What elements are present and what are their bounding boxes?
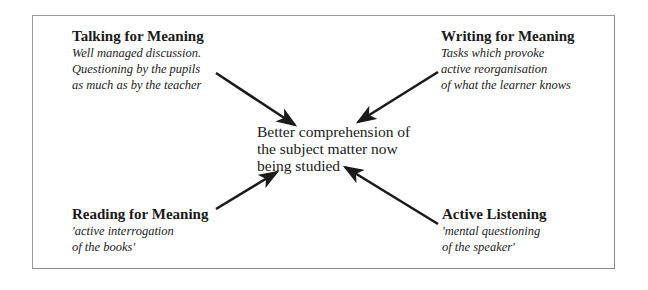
central-outcome-line: Better comprehension of bbox=[257, 123, 410, 140]
node-description-line: as much as by the teacher bbox=[72, 77, 204, 93]
node-heading: Reading for Meaning bbox=[72, 206, 208, 223]
node-description-line: of the books' bbox=[72, 239, 208, 255]
node-description-line: 'active interrogation bbox=[72, 223, 208, 239]
node-description-line: of the speaker' bbox=[442, 239, 547, 255]
node-description-line: 'mental questioning bbox=[442, 223, 547, 239]
node-reading-for-meaning: Reading for Meaning 'active interrogatio… bbox=[72, 206, 208, 255]
node-description-line: Well managed discussion. bbox=[72, 45, 204, 61]
node-active-listening: Active Listening 'mental questioning of … bbox=[442, 206, 547, 255]
node-talking-for-meaning: Talking for Meaning Well managed discuss… bbox=[72, 28, 204, 93]
central-outcome: Better comprehension of the subject matt… bbox=[257, 123, 410, 174]
central-outcome-line: being studied bbox=[257, 157, 410, 174]
node-heading: Writing for Meaning bbox=[441, 28, 575, 45]
node-description-line: Tasks which provoke bbox=[441, 45, 575, 61]
central-outcome-line: the subject matter now bbox=[257, 140, 410, 157]
node-description-line: active reorganisation bbox=[441, 61, 575, 77]
node-description-line: Questioning by the pupils bbox=[72, 61, 204, 77]
node-description-line: of what the learner knows bbox=[441, 77, 575, 93]
node-writing-for-meaning: Writing for Meaning Tasks which provoke … bbox=[441, 28, 575, 93]
node-heading: Active Listening bbox=[442, 206, 547, 223]
node-heading: Talking for Meaning bbox=[72, 28, 204, 45]
